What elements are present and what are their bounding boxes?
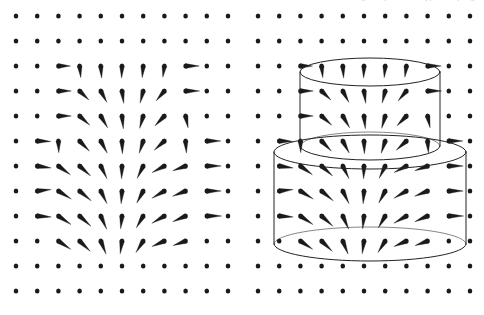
lattice-dot (120, 239, 125, 244)
lattice-dot (256, 214, 261, 219)
lattice-dot (183, 189, 188, 194)
lattice-dot (205, 64, 210, 69)
lattice-dot (14, 239, 19, 244)
lattice-dot (120, 139, 125, 144)
lattice-dot (404, 214, 409, 219)
lattice-dot (383, 189, 388, 194)
lattice-dot (183, 114, 188, 119)
lattice-dot (56, 39, 61, 44)
lattice-dot (77, 239, 82, 244)
lattice-dot (226, 64, 231, 69)
lattice-dot (256, 239, 261, 244)
lattice-dot (447, 64, 452, 69)
lattice-dot (447, 189, 452, 194)
lattice-dot (56, 139, 61, 144)
lattice-dot (14, 114, 19, 119)
lattice-dot (56, 164, 61, 169)
lattice-dot (99, 14, 104, 19)
lattice-dot (447, 239, 452, 244)
lattice-dot (162, 39, 167, 44)
gaussian-surface-small-cylinder (300, 58, 440, 160)
lattice-dot (256, 114, 261, 119)
lattice-dot (162, 214, 167, 219)
lattice-dot (341, 214, 346, 219)
lattice-dot (341, 164, 346, 169)
lattice-dot (14, 89, 19, 94)
lattice-dot (383, 39, 388, 44)
lattice-dot (319, 164, 324, 169)
lattice-dot (120, 39, 125, 44)
lattice-dot (383, 64, 388, 69)
lattice-dot (35, 139, 40, 144)
lattice-dot (226, 139, 231, 144)
lattice-dot (277, 164, 282, 169)
lattice-dot (162, 239, 167, 244)
lattice-dot (319, 139, 324, 144)
lattice-dot (383, 114, 388, 119)
lattice-dot (298, 39, 303, 44)
lattice-dot (162, 139, 167, 144)
lattice-dot (404, 39, 409, 44)
lattice-dot (77, 289, 82, 294)
vector-field-figure (0, 0, 484, 315)
lattice-dot (319, 239, 324, 244)
figure-root: figure caption text clipped at top edge (0, 0, 484, 315)
lattice-dot (14, 189, 19, 194)
lattice-dot (468, 289, 473, 294)
lattice-dot (183, 264, 188, 269)
lattice-dot (183, 14, 188, 19)
lattice-dot (256, 139, 261, 144)
lattice-dot (35, 114, 40, 119)
lattice-dot (468, 214, 473, 219)
lattice-dot (404, 239, 409, 244)
lattice-dot (162, 89, 167, 94)
lattice-dot (277, 14, 282, 19)
lattice-dot (141, 114, 146, 119)
lattice-dot (319, 289, 324, 294)
lattice-dot (14, 214, 19, 219)
lattice-dot (162, 14, 167, 19)
lattice-dot (468, 114, 473, 119)
panel-left (14, 14, 231, 294)
lattice-dot (404, 114, 409, 119)
lattice-dot (14, 289, 19, 294)
lattice-dot (14, 64, 19, 69)
lattice-dot (183, 239, 188, 244)
lattice-dot (298, 14, 303, 19)
lattice-dot (341, 114, 346, 119)
lattice-dot (56, 64, 61, 69)
lattice-dot (362, 14, 367, 19)
lattice-dot (141, 64, 146, 69)
lattice-dot (35, 264, 40, 269)
lattice-dot (319, 214, 324, 219)
lattice-dot (226, 114, 231, 119)
lattice-dot (447, 214, 452, 219)
lattice-dot (319, 64, 324, 69)
lattice-dot (205, 189, 210, 194)
lattice-dot (404, 289, 409, 294)
lattice-dot (35, 14, 40, 19)
lattice-dot (14, 14, 19, 19)
lattice-dot (277, 264, 282, 269)
lattice-dot (341, 39, 346, 44)
cylinder-top-ellipse (274, 135, 466, 169)
lattice-dot (226, 189, 231, 194)
lattice-dot (383, 164, 388, 169)
lattice-dot (447, 289, 452, 294)
lattice-dot (468, 239, 473, 244)
lattice-dot (56, 89, 61, 94)
lattice-dot (277, 189, 282, 194)
lattice-dot (362, 114, 367, 119)
lattice-dot (120, 164, 125, 169)
lattice-dot (468, 64, 473, 69)
lattice-dot (120, 189, 125, 194)
lattice-dot (383, 214, 388, 219)
lattice-dot (226, 289, 231, 294)
lattice-dot (298, 264, 303, 269)
lattice-dot (383, 239, 388, 244)
lattice-dot (162, 289, 167, 294)
lattice-dot (99, 114, 104, 119)
lattice-dot (99, 214, 104, 219)
lattice-dot (56, 289, 61, 294)
lattice-dot (99, 189, 104, 194)
